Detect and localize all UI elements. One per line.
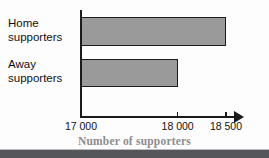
bottom-band bbox=[0, 150, 269, 158]
category-label-away: Away supporters bbox=[8, 58, 76, 85]
tick-mark-18000 bbox=[177, 112, 179, 118]
tick-label-17000: 17 000 bbox=[65, 120, 97, 132]
bar-away-supporters bbox=[81, 59, 178, 87]
tick-label-18500: 18 500 bbox=[210, 120, 242, 132]
category-axis-line bbox=[80, 10, 82, 118]
plot-area: Home supporters Away supporters 17 000 1… bbox=[0, 0, 269, 140]
value-axis-line bbox=[80, 116, 236, 118]
tick-mark-18500 bbox=[225, 112, 227, 118]
chart-figure: Home supporters Away supporters 17 000 1… bbox=[0, 0, 269, 158]
category-label-home: Home supporters bbox=[8, 17, 76, 44]
x-axis-title: Number of supporters bbox=[0, 135, 269, 147]
tick-mark-17000 bbox=[80, 112, 82, 118]
bar-home-supporters bbox=[81, 17, 226, 46]
tick-label-18000: 18 000 bbox=[162, 120, 194, 132]
